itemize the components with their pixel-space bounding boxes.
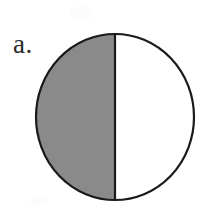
circle-group — [36, 34, 194, 200]
figure-label: a. — [13, 31, 33, 58]
shaded-left-half — [36, 34, 115, 200]
unshaded-right-half — [115, 34, 194, 200]
figure-container: a. — [0, 0, 212, 216]
